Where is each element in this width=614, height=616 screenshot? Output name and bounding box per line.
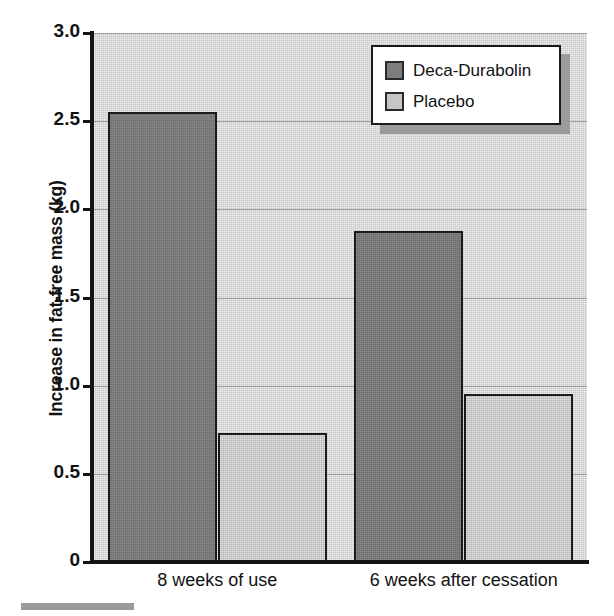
y-axis-tick-label: 2.0	[18, 196, 80, 218]
legend-item-deca-durabolin: Deca-Durabolin	[385, 55, 559, 86]
bar-placebo-8-weeks-of-use	[218, 433, 327, 562]
x-axis-category-label: 6 weeks after cessation	[341, 570, 588, 591]
figure-footer-rule	[21, 603, 134, 610]
gridline	[94, 33, 587, 34]
y-axis-tick-label: 1.5	[18, 285, 80, 307]
y-axis-tick-label: 2.5	[18, 108, 80, 130]
legend-label-series-0: Deca-Durabolin	[413, 61, 531, 81]
x-axis-line	[90, 560, 589, 564]
bar-placebo-6-weeks-after-cessation	[464, 394, 573, 562]
bar-deca-durabolin-6-weeks-after-cessation	[354, 231, 463, 563]
y-axis-tick-label: 1.0	[18, 373, 80, 395]
chart-legend: Deca-Durabolin Placebo	[371, 45, 561, 125]
legend-swatch-icon-series-1	[385, 92, 404, 111]
y-axis-tick-label: 0	[18, 549, 80, 571]
legend-label-series-1: Placebo	[413, 92, 474, 112]
bar-deca-durabolin-8-weeks-of-use	[108, 112, 217, 562]
y-axis-line	[90, 31, 94, 564]
y-axis-tick-label: 3.0	[18, 20, 80, 42]
x-axis-category-label: 8 weeks of use	[94, 570, 341, 591]
y-axis-tick-label: 0.5	[18, 461, 80, 483]
bar-chart-figure: Increase in fat-free mass (kg) 00.51.01.…	[0, 0, 614, 616]
legend-swatch-icon-series-0	[385, 61, 404, 80]
legend-item-placebo: Placebo	[385, 86, 559, 117]
